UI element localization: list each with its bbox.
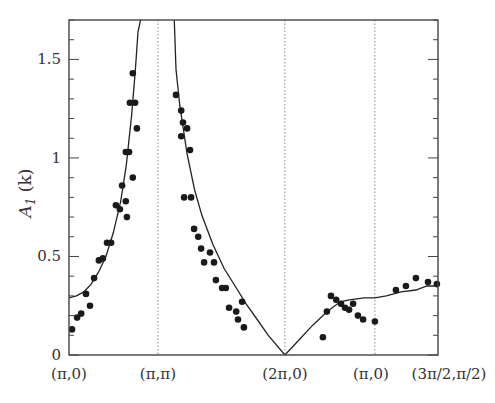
data-point xyxy=(123,198,130,205)
data-point xyxy=(178,133,185,140)
data-point xyxy=(87,302,94,309)
data-point xyxy=(178,107,185,114)
data-point xyxy=(195,234,202,241)
data-points xyxy=(69,70,441,341)
data-point xyxy=(184,125,191,132)
x-tick-label: (π,0) xyxy=(51,365,87,383)
data-point xyxy=(226,304,233,311)
data-point xyxy=(233,308,240,315)
data-point xyxy=(108,239,115,246)
data-point xyxy=(132,100,139,107)
data-point xyxy=(213,277,220,284)
x-tick-label: (2π,0) xyxy=(262,365,307,383)
y-tick-label: 1 xyxy=(51,149,61,167)
data-point xyxy=(350,301,357,308)
data-point xyxy=(241,324,248,331)
data-point xyxy=(346,306,353,313)
data-point xyxy=(187,147,194,154)
data-point xyxy=(425,279,432,286)
data-point xyxy=(434,281,441,288)
data-point xyxy=(372,318,379,325)
data-point xyxy=(413,275,420,282)
data-point xyxy=(235,316,242,323)
y-tick-label: 1.5 xyxy=(37,50,61,68)
data-point xyxy=(180,119,187,126)
data-point xyxy=(181,194,188,201)
data-point xyxy=(119,182,126,189)
data-point xyxy=(124,214,131,221)
chart: 00.511.5 (π,0)(π,π)(2π,0)(π,0)(3π/2,π/2)… xyxy=(0,0,495,403)
data-point xyxy=(191,226,198,233)
data-point xyxy=(393,287,400,294)
data-point xyxy=(207,249,214,256)
data-point xyxy=(100,255,107,262)
data-point xyxy=(403,283,410,290)
data-point xyxy=(324,308,331,315)
data-point xyxy=(198,245,205,252)
data-point xyxy=(188,194,195,201)
data-point xyxy=(126,149,133,156)
y-tick-label: 0.5 xyxy=(37,247,61,265)
y-tick-label: 0 xyxy=(51,346,61,364)
data-point xyxy=(91,275,98,282)
data-point xyxy=(211,259,218,266)
data-point xyxy=(173,92,180,99)
data-point xyxy=(223,285,230,292)
data-point xyxy=(78,310,85,317)
data-point xyxy=(239,299,246,306)
data-point xyxy=(83,291,90,298)
data-point xyxy=(117,206,124,213)
data-point xyxy=(130,174,137,181)
y-axis-label: A1 (k) xyxy=(15,169,38,220)
data-point xyxy=(134,125,141,132)
x-tick-label: (3π/2,π/2) xyxy=(412,365,487,383)
x-tick-label: (π,π) xyxy=(140,365,176,383)
data-point xyxy=(320,334,327,341)
x-axis-tick-labels: (π,0)(π,π)(2π,0)(π,0)(3π/2,π/2) xyxy=(51,365,486,383)
data-point xyxy=(130,70,137,77)
x-tick-label: (π,0) xyxy=(353,365,389,383)
data-point xyxy=(201,259,208,266)
data-point xyxy=(360,316,367,323)
